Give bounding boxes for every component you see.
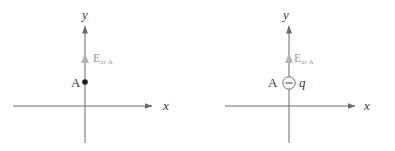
point-a-label: A (268, 76, 277, 89)
y-axis-label: y (82, 8, 88, 21)
diagram-panel-left: y x A Eat A (0, 0, 198, 151)
field-subscript: at A (100, 58, 113, 66)
charge-label: q (299, 76, 306, 89)
diagram-panel-right: y x A q Eat A (197, 0, 395, 151)
panel-right-graphics (197, 0, 395, 151)
x-axis-label: x (364, 99, 370, 112)
field-subscript: at A (301, 58, 314, 66)
field-vector-label: Eat A (294, 52, 314, 64)
physics-field-diagram: y x A Eat A y x (0, 0, 395, 151)
panel-left-graphics (0, 0, 198, 151)
field-vector-label: Eat A (93, 52, 113, 64)
y-axis-label: y (283, 8, 289, 21)
x-axis-label: x (163, 99, 169, 112)
point-a-label: A (71, 76, 80, 89)
point-a-marker-left (82, 79, 88, 85)
